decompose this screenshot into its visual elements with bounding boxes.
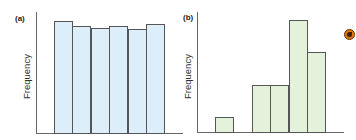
histogram-bar	[128, 29, 147, 134]
panel-label-b: (b)	[183, 13, 193, 22]
panel-label-a: (a)	[15, 14, 25, 23]
histogram-bar	[91, 28, 110, 134]
histogram-bar	[307, 52, 326, 133]
histogram-bar	[146, 24, 165, 134]
histogram-bar	[72, 26, 91, 134]
histogram-bar	[215, 117, 234, 133]
histogram-bar	[252, 85, 271, 133]
y-axis-b	[197, 12, 198, 133]
histogram-bar	[289, 20, 308, 133]
panel-a: (a) Frequency	[0, 0, 178, 140]
y-axis-a	[36, 12, 37, 134]
globe-icon	[344, 29, 355, 40]
histogram-bar	[109, 26, 128, 134]
y-axis-label-a: Frequency	[21, 54, 32, 99]
y-axis-label-b: Frequency	[182, 54, 193, 99]
histogram-bar	[54, 21, 73, 134]
histogram-bar	[270, 85, 289, 133]
